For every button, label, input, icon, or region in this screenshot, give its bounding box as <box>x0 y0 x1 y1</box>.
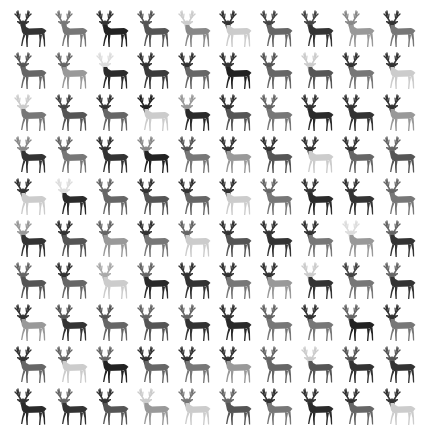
deer-silhouette <box>339 52 377 92</box>
deer-silhouette <box>134 304 172 344</box>
deer-silhouette <box>339 220 377 260</box>
deer-body <box>226 235 252 257</box>
deer-silhouette <box>52 94 90 134</box>
deer-body <box>267 151 293 173</box>
deer-body <box>21 67 47 89</box>
deer-body <box>390 235 416 257</box>
deer-body <box>21 25 47 47</box>
deer-silhouette <box>134 52 172 92</box>
deer-body <box>226 361 252 383</box>
deer-body <box>185 319 211 341</box>
deer-body <box>349 67 375 89</box>
deer-body <box>390 151 416 173</box>
deer-silhouette <box>52 10 90 50</box>
deer-silhouette <box>298 388 336 428</box>
deer-silhouette <box>11 388 49 428</box>
deer-silhouette <box>93 346 131 386</box>
deer-body <box>267 319 293 341</box>
deer-body <box>62 403 88 425</box>
deer-silhouette <box>11 304 49 344</box>
deer-body <box>144 319 170 341</box>
deer-body <box>267 235 293 257</box>
deer-silhouette <box>134 10 172 50</box>
deer-body <box>103 67 129 89</box>
deer-body <box>21 403 47 425</box>
deer-silhouette <box>11 220 49 260</box>
deer-body <box>308 361 334 383</box>
deer-silhouette <box>52 52 90 92</box>
deer-silhouette <box>11 262 49 302</box>
deer-silhouette <box>11 10 49 50</box>
deer-grid <box>11 10 421 435</box>
deer-body <box>267 403 293 425</box>
deer-body <box>144 193 170 215</box>
deer-body <box>185 403 211 425</box>
deer-silhouette <box>216 136 254 176</box>
deer-silhouette <box>93 136 131 176</box>
deer-body <box>103 319 129 341</box>
deer-body <box>103 277 129 299</box>
deer-silhouette <box>93 178 131 218</box>
deer-silhouette <box>298 52 336 92</box>
deer-body <box>185 277 211 299</box>
deer-silhouette <box>216 178 254 218</box>
deer-silhouette <box>257 94 295 134</box>
deer-silhouette <box>134 388 172 428</box>
deer-body <box>226 151 252 173</box>
deer-silhouette <box>52 304 90 344</box>
deer-body <box>103 403 129 425</box>
deer-body <box>103 151 129 173</box>
deer-body <box>62 361 88 383</box>
deer-silhouette <box>216 52 254 92</box>
deer-body <box>144 151 170 173</box>
deer-body <box>103 25 129 47</box>
deer-silhouette <box>298 346 336 386</box>
deer-body <box>390 319 416 341</box>
deer-silhouette <box>93 304 131 344</box>
deer-silhouette <box>339 304 377 344</box>
deer-silhouette <box>380 220 418 260</box>
deer-body <box>21 193 47 215</box>
deer-silhouette <box>93 220 131 260</box>
deer-silhouette <box>298 136 336 176</box>
deer-body <box>308 109 334 131</box>
deer-body <box>103 235 129 257</box>
deer-body <box>21 361 47 383</box>
deer-silhouette <box>11 136 49 176</box>
deer-body <box>349 151 375 173</box>
deer-silhouette <box>52 178 90 218</box>
deer-silhouette <box>380 94 418 134</box>
deer-silhouette <box>93 262 131 302</box>
deer-body <box>144 361 170 383</box>
deer-body <box>308 25 334 47</box>
deer-silhouette <box>216 346 254 386</box>
deer-body <box>308 151 334 173</box>
deer-body <box>308 67 334 89</box>
deer-silhouette <box>175 346 213 386</box>
deer-body <box>185 361 211 383</box>
deer-silhouette <box>175 220 213 260</box>
deer-body <box>267 109 293 131</box>
deer-body <box>62 277 88 299</box>
deer-body <box>349 109 375 131</box>
deer-silhouette <box>93 52 131 92</box>
deer-body <box>144 277 170 299</box>
deer-body <box>226 193 252 215</box>
deer-body <box>267 193 293 215</box>
deer-body <box>144 67 170 89</box>
deer-body <box>390 109 416 131</box>
deer-silhouette <box>380 304 418 344</box>
deer-silhouette <box>257 304 295 344</box>
deer-body <box>103 109 129 131</box>
deer-body <box>103 193 129 215</box>
deer-silhouette <box>339 388 377 428</box>
deer-silhouette <box>257 10 295 50</box>
deer-body <box>390 403 416 425</box>
deer-body <box>62 67 88 89</box>
deer-body <box>144 403 170 425</box>
deer-body <box>267 361 293 383</box>
deer-body <box>226 277 252 299</box>
deer-silhouette <box>134 136 172 176</box>
deer-silhouette <box>11 52 49 92</box>
deer-body <box>21 109 47 131</box>
